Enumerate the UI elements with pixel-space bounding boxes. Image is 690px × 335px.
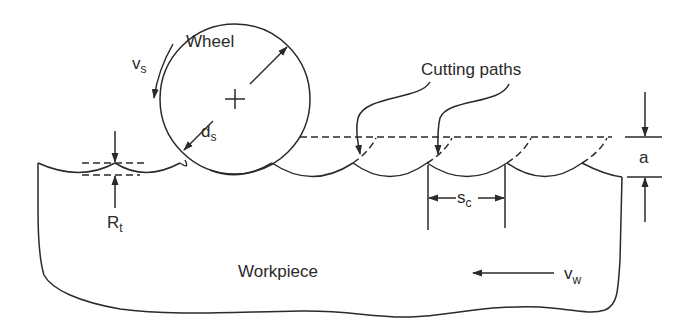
workpiece-speed-indicator: vw <box>473 264 582 287</box>
cutting-spacing-dimension: sc <box>428 165 505 230</box>
wheel-diameter-label: ds <box>201 122 216 144</box>
workpiece-label: Workpiece <box>238 262 318 281</box>
roughness-label: Rt <box>107 213 123 235</box>
wheel-speed-indicator: vs <box>132 44 173 98</box>
cutting-path-arc <box>507 138 531 163</box>
grinding-diagram: Wheel ds vs Cutting paths a Rt <box>0 0 690 335</box>
diameter-arrow-upper <box>250 47 287 84</box>
roughness-dimension: Rt <box>82 131 148 235</box>
callout-arrow-2 <box>438 84 509 154</box>
callout-arrow-1 <box>357 82 430 154</box>
spacing-label: sc <box>457 188 472 210</box>
cutting-path-arc <box>353 138 376 163</box>
rotation-arrow-icon <box>154 44 173 98</box>
cutting-paths-callout: Cutting paths <box>357 60 521 154</box>
depth-label: a <box>639 148 649 167</box>
wheel-speed-label: vs <box>132 54 147 76</box>
grinding-wheel: Wheel ds <box>160 24 310 174</box>
cutting-paths-label: Cutting paths <box>421 60 521 79</box>
wheel-label: Wheel <box>186 32 234 51</box>
workpiece-outline <box>38 160 622 317</box>
depth-of-cut-dimension: a <box>625 92 662 222</box>
workpiece-speed-label: vw <box>564 264 582 287</box>
cutting-path-arc <box>582 138 607 163</box>
cutting-path-arc <box>427 138 452 163</box>
